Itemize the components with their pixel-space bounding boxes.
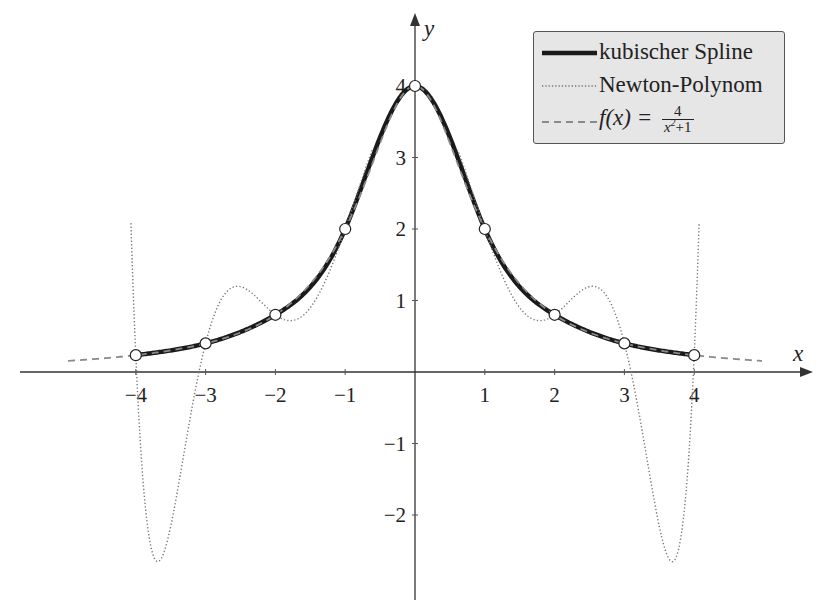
y-tick-label: −2 — [384, 503, 406, 527]
y-tick-label: 3 — [396, 146, 407, 170]
x-tick-label: 3 — [619, 383, 630, 407]
legend-label: f(x) = 4x2+1 — [599, 104, 694, 135]
node-marker — [619, 338, 630, 349]
y-axis-arrow-icon — [410, 13, 420, 26]
legend-item-function: f(x) = 4x2+1 — [534, 103, 784, 137]
y-axis-label: y — [422, 16, 435, 41]
node-marker — [689, 350, 700, 361]
y-tick-label: 1 — [396, 289, 407, 313]
solid-line-icon — [542, 36, 597, 70]
node-marker — [479, 224, 490, 235]
formula-prefix: f(x) = — [599, 105, 658, 130]
formula-fraction: 4x2+1 — [662, 104, 694, 135]
x-tick-label: −1 — [334, 383, 356, 407]
y-tick-label: −1 — [384, 432, 406, 456]
dashed-line-icon — [542, 103, 597, 137]
x-axis-arrow-icon — [800, 367, 813, 377]
dotted-line-icon — [542, 69, 597, 103]
node-marker — [270, 309, 281, 320]
x-tick-label: −2 — [264, 383, 286, 407]
y-tick-label: 2 — [396, 217, 407, 241]
legend: kubischer Spline Newton-Polynom f(x) = 4… — [533, 31, 785, 144]
legend-label: kubischer Spline — [599, 39, 753, 65]
node-marker — [410, 81, 421, 92]
legend-item-newton: Newton-Polynom — [534, 69, 784, 103]
x-axis-label: x — [792, 341, 804, 366]
legend-item-spline: kubischer Spline — [534, 36, 784, 70]
x-tick-label: 1 — [480, 383, 491, 407]
legend-label: Newton-Polynom — [599, 72, 763, 98]
node-marker — [340, 224, 351, 235]
x-tick-label: 2 — [549, 383, 560, 407]
node-marker — [130, 350, 141, 361]
x-tick-label: −4 — [125, 383, 148, 407]
node-marker — [549, 309, 560, 320]
x-tick-label: −3 — [194, 383, 216, 407]
x-tick-label: 4 — [689, 383, 700, 407]
node-marker — [200, 338, 211, 349]
